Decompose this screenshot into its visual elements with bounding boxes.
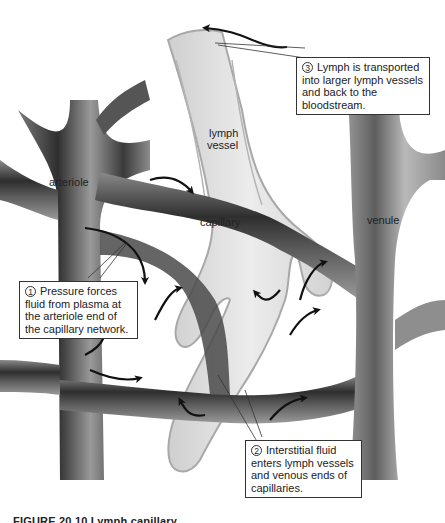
callout-text: the arteriole end of [25, 310, 132, 323]
callout-step-2: 2Interstitial fluid enters lymph vessels… [245, 440, 362, 498]
callout-text: and venous ends of [251, 469, 356, 482]
callout-text: capillaries. [251, 482, 356, 495]
callout-text: fluid from plasma at [25, 298, 132, 311]
callout-step-3: 3Lymph is transported into larger lymph … [296, 57, 430, 115]
curved-arrow-icon [290, 310, 318, 335]
callout-step-1: 1Pressure forces fluid from plasma at th… [19, 281, 138, 339]
label-venule: venule [367, 214, 399, 226]
figure-caption: FIGURE 20.10 Lymph capillary [13, 514, 177, 523]
label-capillary: capillary [200, 216, 240, 228]
curved-arrow-icon [155, 288, 180, 320]
callout-text: Lymph is transported [317, 61, 419, 73]
label-lymph-vessel-line1: lymph [209, 127, 238, 139]
lymph-capillary-diagram: lymph vessel arteriole capillary venule … [0, 0, 445, 523]
callout-text: enters lymph vessels [251, 457, 356, 470]
callout-text: the capillary network. [25, 323, 132, 336]
label-lymph-vessel-line2: vessel [207, 139, 238, 151]
step-marker-icon: 3 [302, 62, 313, 73]
step-marker-icon: 2 [251, 445, 262, 456]
callout-text: Interstitial fluid [266, 444, 336, 456]
step-marker-icon: 1 [25, 286, 36, 297]
callout-text: bloodstream. [302, 99, 424, 112]
arteriole-vessel [0, 80, 150, 480]
venule-vessel [345, 70, 445, 480]
callout-text: into larger lymph vessels [302, 74, 424, 87]
label-arteriole: arteriole [49, 176, 89, 188]
callout-text: Pressure forces [40, 285, 117, 297]
callout-text: and back to the [302, 86, 424, 99]
